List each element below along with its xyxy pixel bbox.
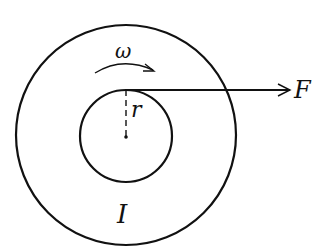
force-label: F (293, 76, 312, 104)
center-dot (124, 135, 128, 139)
radius-label: r (131, 97, 143, 122)
rotating-disk-diagram: ω r F I (0, 0, 332, 250)
omega-label: ω (115, 39, 131, 63)
inertia-label: I (116, 199, 128, 229)
